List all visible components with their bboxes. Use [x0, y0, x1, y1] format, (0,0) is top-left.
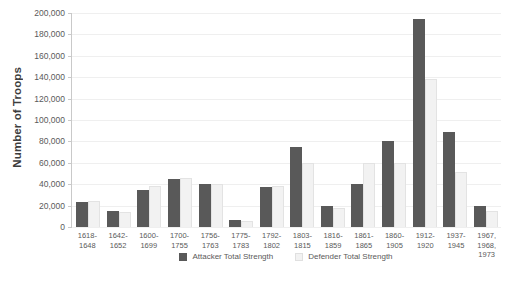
bar-defender[interactable]: [486, 211, 498, 227]
y-axis-tick: [68, 34, 72, 35]
y-axis-title-label: Number of Troops: [11, 67, 23, 168]
bar-attacker[interactable]: [290, 147, 302, 227]
bar-pair: [287, 13, 318, 227]
y-axis-tick-label: 60,000: [39, 158, 65, 168]
y-axis-tick-label: 180,000: [34, 29, 65, 39]
bar-attacker[interactable]: [443, 132, 455, 227]
bar-defender[interactable]: [88, 201, 100, 227]
bar-pair: [195, 13, 226, 227]
y-axis-tick-label: 120,000: [34, 94, 65, 104]
bar-group: [379, 13, 410, 227]
y-axis-tick: [68, 163, 72, 164]
bar-attacker[interactable]: [168, 179, 180, 227]
bar-group: [471, 13, 502, 227]
bar-defender[interactable]: [149, 186, 161, 227]
bar-attacker[interactable]: [260, 187, 272, 227]
bar-pair: [471, 13, 502, 227]
gridline: [72, 227, 501, 228]
y-axis-tick: [68, 227, 72, 228]
bar-group: [104, 13, 135, 227]
bar-defender[interactable]: [272, 186, 284, 227]
bar-group: [226, 13, 257, 227]
bar-group: [165, 13, 196, 227]
bar-defender[interactable]: [363, 163, 375, 227]
bar-defender[interactable]: [180, 178, 192, 227]
bar-pair: [348, 13, 379, 227]
y-axis-tick-label: 100,000: [34, 115, 65, 125]
bar-group: [287, 13, 318, 227]
bar-attacker[interactable]: [474, 206, 486, 227]
y-axis-tick-label: 140,000: [34, 72, 65, 82]
y-axis-tick-label: 160,000: [34, 51, 65, 61]
bar-group: [195, 13, 226, 227]
legend-item[interactable]: Attacker Total Strength: [179, 252, 273, 261]
bar-attacker[interactable]: [321, 206, 333, 227]
legend-label: Attacker Total Strength: [192, 252, 273, 261]
bar-pair: [379, 13, 410, 227]
chart-legend: Attacker Total StrengthDefender Total St…: [71, 252, 501, 261]
y-axis-tick-label: 0: [60, 222, 65, 232]
bar-attacker[interactable]: [413, 19, 425, 227]
y-axis-tick: [68, 13, 72, 14]
y-axis-tick: [68, 141, 72, 142]
y-axis-tick: [68, 120, 72, 121]
bar-defender[interactable]: [241, 221, 253, 227]
bar-pair: [318, 13, 349, 227]
bar-group: [348, 13, 379, 227]
bar-pair: [226, 13, 257, 227]
bar-pair: [440, 13, 471, 227]
bar-attacker[interactable]: [229, 220, 241, 227]
bar-attacker[interactable]: [107, 211, 119, 227]
legend-label: Defender Total Strength: [308, 252, 392, 261]
bar-defender[interactable]: [119, 212, 131, 227]
bar-defender[interactable]: [394, 163, 406, 227]
bar-pair: [134, 13, 165, 227]
bar-group: [440, 13, 471, 227]
y-axis-tick: [68, 184, 72, 185]
bar-pair: [256, 13, 287, 227]
bar-group: [134, 13, 165, 227]
legend-item[interactable]: Defender Total Strength: [295, 252, 392, 261]
bar-attacker[interactable]: [76, 202, 88, 227]
bar-group: [409, 13, 440, 227]
bar-defender[interactable]: [455, 172, 467, 227]
bar-defender[interactable]: [333, 208, 345, 227]
bar-defender[interactable]: [302, 163, 314, 227]
y-axis-tick: [68, 206, 72, 207]
bar-group: [318, 13, 349, 227]
bar-pair: [73, 13, 104, 227]
y-axis-tick: [68, 99, 72, 100]
legend-swatch-icon: [295, 253, 303, 261]
y-axis-tick-label: 20,000: [39, 201, 65, 211]
bar-pair: [409, 13, 440, 227]
y-axis-tick: [68, 56, 72, 57]
bar-group: [73, 13, 104, 227]
legend-swatch-icon: [179, 253, 187, 261]
plot-area: 200,000180,000160,000140,000120,000100,0…: [71, 13, 501, 228]
bar-attacker[interactable]: [382, 141, 394, 227]
bar-pair: [104, 13, 135, 227]
bar-attacker[interactable]: [137, 190, 149, 227]
y-axis-tick-label: 200,000: [34, 8, 65, 18]
bar-defender[interactable]: [211, 184, 223, 227]
bars-layer: [73, 13, 501, 227]
y-axis-tick-label: 40,000: [39, 179, 65, 189]
y-axis-tick: [68, 77, 72, 78]
bar-attacker[interactable]: [199, 184, 211, 227]
bar-attacker[interactable]: [351, 184, 363, 227]
bar-group: [256, 13, 287, 227]
bar-chart: Number of Troops 200,000180,000160,00014…: [0, 0, 519, 281]
y-axis-tick-label: 80,000: [39, 136, 65, 146]
bar-pair: [165, 13, 196, 227]
bar-defender[interactable]: [425, 79, 437, 227]
y-axis-title: Number of Troops: [0, 0, 34, 235]
